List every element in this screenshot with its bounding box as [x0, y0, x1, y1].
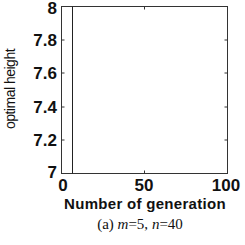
y-tick-label: 7.6	[33, 65, 57, 82]
y-axis-label: optimal height	[3, 34, 17, 144]
x-tick-label: 0	[58, 177, 67, 194]
y-tick-label: 8	[48, 0, 57, 17]
axes-frame	[62, 7, 228, 174]
y-tick-label: 7.8	[33, 32, 57, 49]
y-tick-label: 7.2	[33, 132, 57, 149]
y-tick-label: 7.4	[33, 99, 57, 116]
y-tick-marks	[62, 40, 228, 140]
x-tick-label: 50	[135, 177, 154, 194]
x-axis-label: Number of generation	[50, 195, 240, 212]
y-tick-label: 7	[48, 164, 57, 181]
x-tick-label: 100	[212, 177, 240, 194]
figure-caption: (a) m=5, n=40	[40, 216, 240, 233]
